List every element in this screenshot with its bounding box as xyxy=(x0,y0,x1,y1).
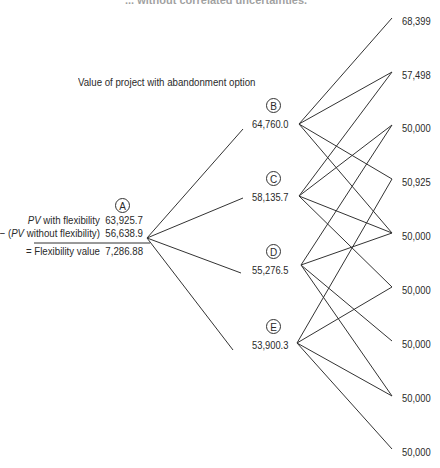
pv-italic: PV xyxy=(11,227,24,239)
node-c-value: 58,135.7 xyxy=(252,191,288,203)
terminal-value: 50,000 xyxy=(402,338,431,350)
row-prefix: − ( xyxy=(0,227,11,239)
terminal-value: 50,000 xyxy=(402,446,431,458)
node-e-circle: E xyxy=(266,319,281,334)
terminal-value: 57,498 xyxy=(402,69,431,81)
node-e-value: 53,900.3 xyxy=(252,339,288,351)
node-c-circle: C xyxy=(266,171,281,186)
row-text: without flexibility) xyxy=(24,227,100,239)
flexibility-value-row: = Flexibility value 7,286.88 xyxy=(26,245,143,257)
pv-with-flexibility-value: 63,925.7 xyxy=(105,214,143,226)
terminal-value: 50,000 xyxy=(402,284,431,296)
row-text: Flexibility value xyxy=(34,245,100,257)
terminal-value: 68,399 xyxy=(402,15,431,27)
terminal-value: 50,000 xyxy=(402,230,431,242)
node-b-circle: B xyxy=(266,98,281,113)
terminal-value: 50,925 xyxy=(402,176,431,188)
node-d-value: 55,276.5 xyxy=(252,264,288,276)
flexibility-value: 7,286.88 xyxy=(105,245,143,257)
row-text: with flexibility xyxy=(41,214,100,226)
pv-italic: PV xyxy=(28,214,41,226)
node-b-value: 64,760.0 xyxy=(252,118,288,130)
terminal-value: 50,000 xyxy=(402,122,431,134)
pv-without-flexibility-value: 56,638.9 xyxy=(105,227,143,239)
pv-with-flexibility-row: PV with flexibility 63,925.7 xyxy=(28,214,143,226)
node-a-circle: A xyxy=(115,198,130,213)
pv-without-flexibility-row: − (PV without flexibility) 56,638.9 xyxy=(0,227,143,239)
terminal-value: 50,000 xyxy=(402,392,431,404)
root-calc: PV with flexibility 63,925.7 − (PV witho… xyxy=(0,214,143,254)
node-d-circle: D xyxy=(266,244,281,259)
